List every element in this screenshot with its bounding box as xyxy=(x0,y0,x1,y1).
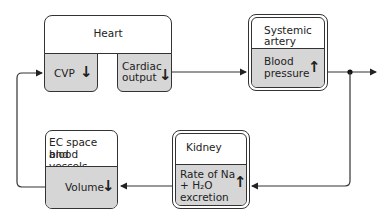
arrow-down-icon: ↓ xyxy=(80,65,93,80)
cvp-box: CVP ↓ xyxy=(44,53,98,92)
blood-pressure-label-2: pressure xyxy=(264,67,309,79)
blood-pressure-label-1: Blood xyxy=(264,55,294,67)
heart-box: Heart xyxy=(44,15,172,54)
excretion-label-3: excretion xyxy=(180,191,229,203)
volume-label: Volume xyxy=(65,181,104,193)
cvp-label: CVP xyxy=(54,67,75,79)
cardiac-output-label-2: output xyxy=(122,71,157,83)
ec-space-box: EC space and blood vessels Volume ↓ xyxy=(45,130,118,209)
arrow-up-icon: ↑ xyxy=(308,60,321,75)
cardiac-output-box: Cardiac output ↓ xyxy=(117,53,172,92)
kidney-title: Kidney xyxy=(186,141,222,153)
systemic-artery-title-2: artery xyxy=(264,35,296,47)
excretion-label-2: + H₂O xyxy=(180,179,213,191)
systemic-artery-box: Systemic artery Blood pressure ↑ xyxy=(248,14,328,91)
arrow-down-icon: ↓ xyxy=(159,68,172,83)
arrow-up-icon: ↑ xyxy=(234,175,247,190)
heart-title: Heart xyxy=(45,27,171,39)
kidney-box: Kidney Rate of Na + H₂O excretion ↑ xyxy=(172,130,250,209)
arrow-down-icon: ↓ xyxy=(102,179,115,194)
